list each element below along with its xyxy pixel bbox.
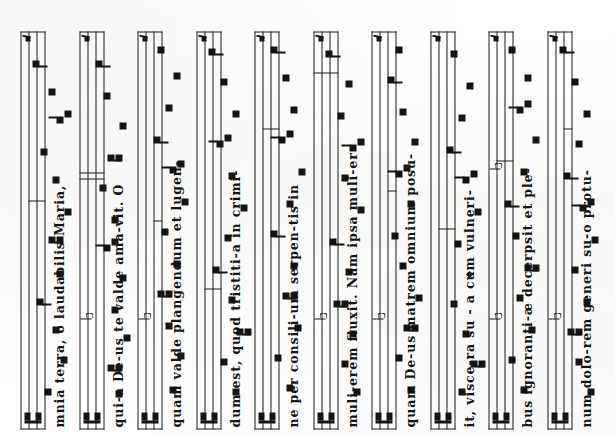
lyric-line: ne per consili-um serpen-tis in: [285, 0, 300, 427]
neume-virga: [325, 50, 332, 57]
neume-punctum: [512, 232, 519, 239]
neume-podatus: [157, 290, 164, 297]
staff-line: [371, 31, 372, 429]
staff-end-barline: [430, 31, 455, 32]
neume-head: [387, 76, 394, 83]
staff-line: [262, 31, 263, 429]
neume-stem: [208, 140, 217, 142]
staff-line: [36, 31, 37, 429]
staff-line: [504, 31, 505, 429]
neume-head: [220, 358, 227, 365]
neume-punctum: [220, 358, 227, 365]
c-clef-icon: [317, 412, 334, 423]
flat-accidental-icon: [80, 313, 91, 319]
custos-icon: [22, 33, 31, 41]
c-clef-icon: [551, 412, 568, 423]
c-clef-icon: [375, 412, 392, 423]
music-staff: [371, 31, 398, 429]
neume-virga: [446, 146, 453, 153]
music-staff: [137, 31, 164, 429]
staff-end-barline: [371, 31, 396, 32]
clef-part: [551, 412, 557, 420]
chant-divider-barline: [438, 228, 455, 229]
neume-head: [395, 170, 402, 177]
chant-system: mnia terra, o laudabilis Maria,: [20, 0, 76, 435]
staff-end-barline: [547, 31, 572, 32]
clef-part: [211, 412, 217, 420]
staff-line: [28, 31, 29, 429]
staff-start-barline: [254, 428, 279, 429]
neume-punctum: [337, 112, 344, 119]
neume-head: [395, 46, 402, 53]
clef-part: [83, 412, 89, 420]
staff-line: [430, 31, 431, 429]
neume-head: [95, 60, 102, 67]
flat-bowl: [85, 312, 93, 318]
custos-icon: [549, 33, 558, 41]
staff-line: [337, 31, 338, 429]
clef-part: [562, 412, 568, 420]
staff-line: [20, 31, 21, 429]
neume-podatus: [333, 300, 340, 307]
custos-tail: [490, 34, 498, 38]
custos-icon: [139, 33, 148, 41]
neume-head: [504, 200, 511, 207]
clef-part: [141, 412, 147, 420]
staff-start-barline: [430, 428, 455, 429]
chant-divider-barline: [496, 160, 513, 161]
staff-line: [44, 31, 45, 429]
neume-stem: [387, 170, 396, 172]
neume-stem: [95, 244, 104, 246]
flat-bowl: [377, 312, 385, 318]
staff-start-barline: [488, 428, 513, 429]
lyric-line: quam De-us matrem omnium posu-: [402, 0, 417, 427]
neume-head: [395, 354, 402, 361]
flat-accidental-icon: [138, 313, 149, 319]
custos-icon: [490, 33, 499, 41]
neume-head: [157, 290, 164, 297]
neume-stem: [510, 205, 519, 207]
music-staff: [488, 31, 515, 429]
neume-head: [103, 92, 110, 99]
staff-start-barline: [313, 428, 338, 429]
custos-tail: [373, 34, 381, 38]
clef-part: [35, 412, 41, 420]
staff-line: [321, 31, 322, 429]
custos-tail: [432, 34, 440, 38]
neume-virga: [270, 230, 277, 237]
flat-bowl: [319, 312, 327, 318]
clef-part: [258, 412, 264, 420]
custos-icon: [81, 33, 90, 41]
neume-head: [329, 238, 336, 245]
staff-line: [496, 31, 497, 429]
staff-line: [313, 31, 314, 429]
flat-accidental-icon: [548, 313, 559, 319]
staff-line: [547, 31, 548, 429]
clef-part: [200, 412, 206, 420]
custos-tail: [315, 34, 323, 38]
c-clef-icon: [200, 412, 217, 423]
neume-head: [512, 232, 519, 239]
neume-punctum: [103, 92, 110, 99]
staff-line: [329, 31, 330, 429]
neume-punctum: [157, 46, 164, 53]
neume-head: [508, 46, 515, 53]
staff-line: [220, 31, 221, 429]
custos-icon: [432, 33, 441, 41]
clef-part: [386, 412, 392, 420]
neume-clivis: [216, 140, 223, 147]
music-staff: [79, 31, 106, 429]
neume-stem: [508, 106, 517, 108]
neume-stem: [452, 151, 461, 153]
staff-start-barline: [547, 428, 572, 429]
staff-start-barline: [137, 428, 162, 429]
neume-head: [99, 184, 106, 191]
clef-part: [24, 412, 30, 420]
c-clef-icon: [258, 412, 275, 423]
staff-line: [137, 31, 138, 429]
neume-punctum: [274, 354, 281, 361]
music-staff: [254, 31, 281, 429]
neume-stem: [276, 51, 285, 53]
chant-system: quam De-us matrem omnium posu-: [371, 0, 427, 435]
neume-stem: [393, 81, 402, 83]
